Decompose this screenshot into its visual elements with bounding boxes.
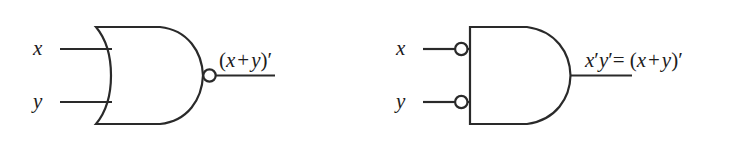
nand-output-expression: x′y′=(x+y)′ xyxy=(585,50,683,71)
nor-expr-close-paren: ) xyxy=(261,48,268,72)
gate-diagram-canvas xyxy=(0,0,734,165)
nor-expr-open-paren: ( xyxy=(219,48,226,72)
nand-expr-operand-y: y xyxy=(662,48,671,72)
nand-input-y-bubble-icon xyxy=(455,96,467,108)
nor-input-x-label: x xyxy=(33,38,42,59)
nor-expr-operand-x: x xyxy=(226,48,235,72)
logic-gate-figure: x y (x+y)′ x y x′y′=(x+y)′ xyxy=(0,0,734,165)
nand-expr-prime-result: ′ xyxy=(678,48,683,72)
nor-expr-operand-y: y xyxy=(251,48,260,72)
nand-expr-term-y: y xyxy=(599,48,608,72)
nor-output-expression: (x+y)′ xyxy=(219,50,272,71)
nand-expr-term-x: x xyxy=(585,48,594,72)
nand-input-y-label: y xyxy=(396,91,405,112)
nand-input-x-bubble-icon xyxy=(455,43,467,55)
nor-gate-body xyxy=(96,27,203,124)
nor-expr-prime: ′ xyxy=(268,48,273,72)
negative-and-gate xyxy=(423,27,632,124)
nand-expr-open-paren: ( xyxy=(625,48,637,72)
nand-expr-operand-x: x xyxy=(637,48,646,72)
nand-expr-operator: + xyxy=(646,48,662,72)
nand-input-x-label: x xyxy=(396,38,405,59)
and-gate-body xyxy=(470,27,571,124)
nor-input-y-label: y xyxy=(33,91,42,112)
nor-gate xyxy=(60,27,275,124)
nor-expr-operator: + xyxy=(235,48,251,72)
nor-output-bubble-icon xyxy=(203,69,215,81)
nand-expr-equals: = xyxy=(613,48,625,72)
